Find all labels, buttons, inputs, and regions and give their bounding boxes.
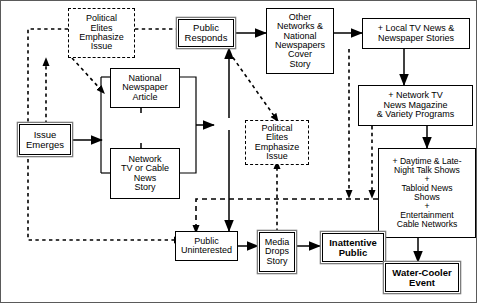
- diagram-canvas: PoliticalElitesEmphasizeIssue PublicResp…: [0, 0, 479, 305]
- node-label: NetworkTV or CableNewsStory: [120, 155, 170, 192]
- node-label: IssueEmerges: [25, 130, 65, 150]
- node-label: OtherNetworks &NationalNewspapersCoverSt…: [274, 13, 326, 69]
- node-local-tv-news[interactable]: + Local TV News &Newspaper Stories: [362, 18, 470, 49]
- node-label: PublicResponds: [184, 23, 229, 43]
- node-network-tv-or-cable-news-story[interactable]: NetworkTV or CableNewsStory: [110, 148, 180, 199]
- node-media-drops-story[interactable]: MediaDropsStory: [259, 232, 295, 272]
- node-water-cooler-event[interactable]: Water-CoolerEvent: [385, 263, 459, 292]
- node-label: InattentivePublic: [328, 238, 378, 258]
- node-label: PoliticalElitesEmphasizeIssue: [78, 14, 125, 51]
- edge-dashed-bus-to-uninterested: [196, 199, 378, 231]
- cluster-right-spine: [180, 77, 196, 173]
- node-issue-emerges[interactable]: IssueEmerges: [19, 124, 71, 155]
- node-label: + Network TVNews Magazine& Variety Progr…: [376, 91, 455, 119]
- edge-elites-to-newspaper: [72, 58, 103, 92]
- node-network-tv-news-magazine[interactable]: + Network TVNews Magazine& Variety Progr…: [358, 85, 473, 126]
- node-label: NationalNewspaperArticle: [121, 74, 169, 102]
- node-national-newspaper-article[interactable]: NationalNewspaperArticle: [110, 68, 180, 108]
- node-public-responds[interactable]: PublicResponds: [178, 19, 234, 47]
- node-inattentive-public[interactable]: InattentivePublic: [322, 233, 384, 262]
- node-other-networks-cover-story[interactable]: OtherNetworks &NationalNewspapersCoverSt…: [266, 8, 334, 74]
- node-label: MediaDropsStory: [264, 238, 291, 266]
- node-label: + Daytime & Late-Night Talk Shows+Tabloi…: [391, 157, 462, 229]
- node-label: PublicUninterested: [180, 237, 233, 256]
- node-political-elites-mid[interactable]: PoliticalElitesEmphasizeIssue: [245, 120, 309, 165]
- node-political-elites-top[interactable]: PoliticalElitesEmphasizeIssue: [68, 8, 135, 58]
- node-label: + Local TV News &Newspaper Stories: [377, 24, 456, 43]
- node-label: Water-CoolerEvent: [391, 268, 452, 288]
- node-label: PoliticalElitesEmphasizeIssue: [254, 124, 301, 161]
- node-public-uninterested[interactable]: PublicUninterested: [175, 231, 238, 261]
- node-daytime-late-night-tabloid[interactable]: + Daytime & Late-Night Talk Shows+Tabloi…: [378, 148, 476, 238]
